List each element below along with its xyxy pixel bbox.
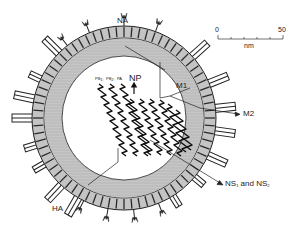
- pb1-label: PB1,: [95, 77, 104, 82]
- scale-max-label: 50: [278, 26, 286, 33]
- na-spike-icon: [153, 18, 163, 32]
- pa-label: PA: [117, 77, 122, 81]
- m1-label: M1: [176, 82, 187, 90]
- scale-min-label: 0: [215, 26, 219, 33]
- na-spike-icon: [131, 209, 138, 223]
- ha-label: HA: [52, 205, 63, 213]
- na-spike-icon: [156, 202, 166, 216]
- pb2-label: PB2,: [106, 77, 115, 82]
- virus-diagram: NA NP PB1, PB2, PA M1 M2 HA NS1 and NS2 …: [0, 0, 303, 227]
- na-spike-icon: [103, 208, 111, 222]
- np-label: NP: [129, 74, 142, 83]
- na-label: NA: [117, 17, 128, 25]
- ns-label: NS1 and NS2: [225, 180, 270, 188]
- scale-unit-label: nm: [244, 42, 254, 49]
- m2-label: M2: [243, 110, 254, 118]
- virus-illustration: [0, 0, 303, 227]
- na-spike-icon: [82, 20, 92, 34]
- scale-bar: [218, 35, 283, 39]
